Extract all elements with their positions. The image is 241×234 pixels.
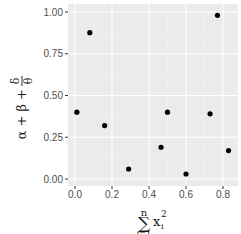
- data-point: [183, 171, 188, 176]
- data-point: [165, 110, 170, 115]
- data-point: [215, 13, 220, 18]
- x-tick-label: 0.2: [105, 189, 119, 200]
- data-point: [226, 148, 231, 153]
- x-tick-label: 0.0: [68, 189, 82, 200]
- y-tick-label: 0.25: [44, 132, 64, 143]
- y-title-lhs: α + β +: [14, 89, 29, 139]
- data-point: [102, 123, 107, 128]
- data-point: [74, 110, 79, 115]
- x-tick-label: 0.6: [179, 189, 193, 200]
- sum-lower-limit: i=1: [137, 229, 151, 234]
- x-tick-label: 0.8: [216, 189, 230, 200]
- data-point: [87, 30, 92, 35]
- y-tick-label: 0.50: [44, 90, 64, 101]
- x-axis: 0.00.20.40.60.8: [68, 186, 230, 200]
- x-title-var: x: [153, 214, 161, 229]
- x-tick-label: 0.4: [142, 189, 156, 200]
- y-axis-title: α + β + δ θ: [9, 76, 35, 139]
- x-title-superscript: 2: [161, 209, 167, 219]
- y-axis: 0.000.250.500.751.00: [44, 7, 68, 185]
- y-tick-label: 0.00: [44, 174, 64, 185]
- data-point: [207, 111, 212, 116]
- x-axis-title: n ∑ i=1 x 2 i: [137, 207, 167, 234]
- scatter-chart: 0.000.250.500.751.00 0.00.20.40.60.8 α +…: [0, 0, 241, 234]
- y-title-denominator: θ: [22, 77, 35, 84]
- y-tick-label: 1.00: [44, 7, 64, 18]
- y-tick-label: 0.75: [44, 48, 64, 59]
- data-point: [126, 166, 131, 171]
- data-point: [158, 145, 163, 150]
- x-title-subscript: i: [161, 222, 164, 231]
- y-title-numerator: δ: [9, 77, 22, 84]
